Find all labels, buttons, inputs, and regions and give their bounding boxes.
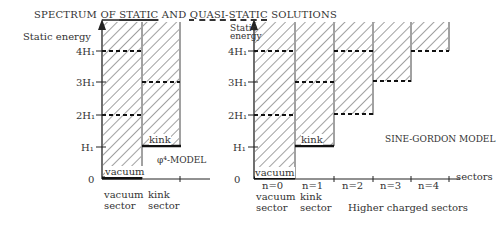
diagram-title: SPECTRUM OF STATIC AND QUASI-STATIC SOLU… [34, 9, 337, 20]
vacuum-continuum [103, 22, 141, 177]
kink-inside-label: kink [301, 134, 323, 145]
kink-sector-label-1: kink [300, 191, 322, 202]
kink-inside-label: kink [149, 134, 171, 145]
level-4h1: 4H₁ [228, 46, 247, 57]
higher-charged-sectors-label: Higher charged sectors [348, 202, 468, 213]
right-plot [248, 19, 460, 182]
sectors-xlabel: sectors [456, 171, 493, 182]
level-h1: H₁ [81, 142, 94, 153]
vacuum-sector-label-2: sector [104, 200, 135, 211]
kink-sector-label-2: sector [148, 200, 179, 211]
vacuum-inside-label: vacuum [255, 167, 295, 178]
vacuum-sector-label-2: sector [256, 202, 287, 213]
n0-label: n=0 [262, 180, 283, 191]
n1-label: n=1 [302, 180, 323, 191]
vacuum-sector-label-1: vacuum [256, 191, 296, 202]
level-3h1: 3H₁ [76, 77, 95, 88]
level-0: 0 [88, 174, 94, 185]
level-2h1: 2H₁ [228, 110, 247, 121]
left-ylabel: Static energy [23, 31, 91, 42]
right-ylabel-2: energy [230, 32, 262, 40]
n3-label: n=3 [380, 180, 401, 191]
level-2h1: 2H₁ [76, 110, 95, 121]
level-4h1: 4H₁ [76, 46, 95, 57]
kink-sector-label-1: kink [148, 189, 170, 200]
level-3h1: 3H₁ [228, 77, 247, 88]
n4-label: n=4 [418, 180, 439, 191]
kink-sector-label-2: sector [300, 202, 331, 213]
n2-label: n=2 [342, 180, 363, 191]
kink-continuum [143, 22, 179, 146]
phi4-model-label: φ⁴-MODEL [157, 155, 206, 166]
vacuum-sector-label-1: vacuum [104, 189, 144, 200]
level-h1: H₁ [233, 142, 246, 153]
vacuum-inside-label: vacuum [105, 166, 145, 177]
level-0: 0 [234, 174, 240, 185]
sine-gordon-model-label: SINE-GORDON MODEL [385, 134, 495, 145]
